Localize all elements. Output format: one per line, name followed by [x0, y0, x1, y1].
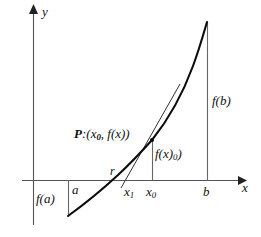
function-curve	[68, 22, 207, 216]
x-axis	[22, 176, 247, 185]
label-point-P-tail: , f(x))	[101, 126, 130, 141]
label-point-P-name: P	[74, 126, 82, 141]
tangent-line-at-P	[121, 84, 180, 188]
y-axis-arrowhead	[29, 4, 38, 14]
label-f-of-x0-head: f(x)	[155, 146, 173, 161]
label-tick-a: a	[72, 183, 79, 196]
x-axis-label: x	[242, 181, 248, 194]
label-tick-x0-subscript: 0	[152, 190, 156, 200]
label-tick-x1-subscript: 1	[130, 190, 134, 200]
label-f-of-a: f(a)	[36, 192, 55, 205]
newtons-method-figure: y x f(b) P:(x0, f(x)) f(x)0) a r x1 x0 b…	[0, 0, 261, 237]
label-point-P-colon: :(	[82, 126, 91, 141]
label-f-of-x0: f(x)0)	[155, 147, 182, 162]
y-axis-label: y	[42, 5, 48, 18]
label-tick-x1: x1	[124, 185, 134, 200]
label-f-of-b: f(b)	[212, 94, 231, 107]
label-point-P: P:(x0, f(x))	[74, 127, 130, 142]
label-tick-x0: x0	[146, 185, 156, 200]
label-f-of-x0-paren: )	[177, 146, 181, 161]
point-P-marker	[150, 138, 154, 142]
label-tick-r: r	[110, 165, 115, 177]
label-tick-b: b	[203, 185, 210, 198]
